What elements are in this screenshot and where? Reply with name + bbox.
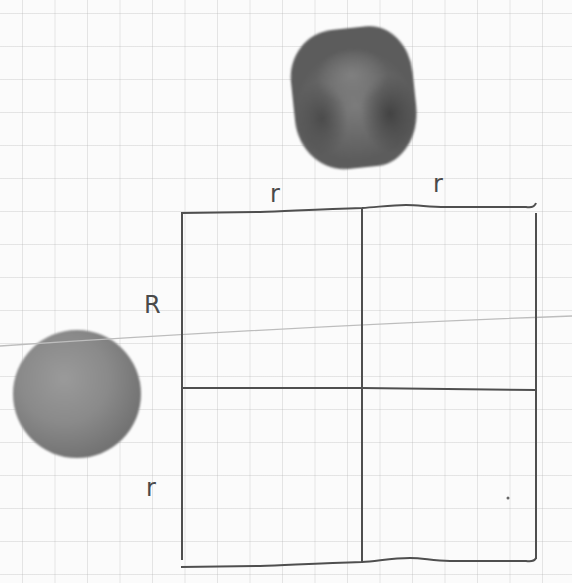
- label-left-upper-R: R: [144, 293, 161, 317]
- diagram-canvas: r r R r: [0, 0, 572, 583]
- square-middle-horizontal: [182, 388, 536, 390]
- square-top-edge: [181, 203, 536, 213]
- label-left-lower-r: r: [146, 476, 156, 500]
- ink-dot: [507, 497, 510, 500]
- label-top-right-r: r: [433, 172, 443, 196]
- square-bottom-edge: [181, 558, 536, 567]
- stray-line: [0, 316, 572, 346]
- square-diagram: [0, 0, 572, 583]
- label-top-left-r: r: [270, 182, 280, 206]
